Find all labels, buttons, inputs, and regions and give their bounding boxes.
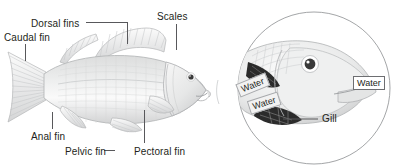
inset-eye-pupil <box>305 59 316 70</box>
label-anal-fin: Anal fin <box>31 131 65 142</box>
fish-eye-pupil <box>188 74 193 79</box>
label-scales: Scales <box>157 11 188 22</box>
label-water-mouth: Water <box>353 76 385 90</box>
label-caudal-fin: Caudal fin <box>4 32 50 43</box>
caudal-fin-shape <box>8 52 46 122</box>
label-pectoral-fin: Pectoral fin <box>134 146 185 157</box>
label-pelvic-fin: Pelvic fin <box>65 146 106 157</box>
label-dorsal-fins: Dorsal fins <box>31 18 79 29</box>
fish-anatomy-figure: Caudal fin Dorsal fins Scales Anal fin P… <box>0 0 395 167</box>
anal-fin-leader <box>52 112 53 129</box>
label-gill: Gill <box>322 113 337 124</box>
pectoral-fin-leader <box>144 110 145 143</box>
caudal-fin-leader <box>25 44 26 61</box>
dorsal-fins-leader <box>86 22 128 44</box>
scales-leader <box>176 24 177 50</box>
